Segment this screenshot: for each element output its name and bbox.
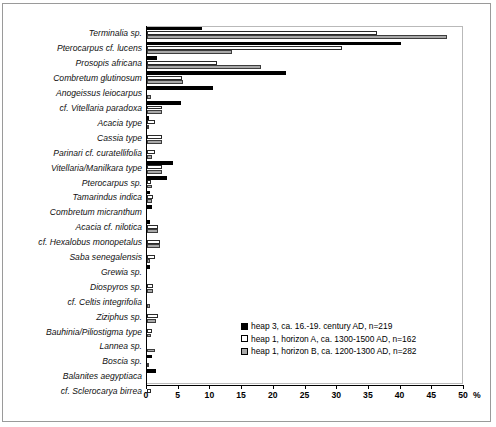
bar-series-0: [147, 71, 286, 75]
bar-series-1: [147, 284, 153, 288]
legend-item: heap 1, horizon B, ca. 1200-1300 AD, n=2…: [241, 345, 426, 358]
category-label: Grewia sp.: [3, 267, 142, 277]
figure-page: Terminalia sp.Pterocarpus cf. lucensPros…: [0, 0, 496, 427]
figure-frame: Terminalia sp.Pterocarpus cf. lucensPros…: [2, 3, 491, 422]
bar-row: Parinari cf. curatellifolia: [3, 145, 483, 160]
bar-group: [147, 131, 483, 145]
category-label: Parinari cf. curatellifolia: [3, 148, 142, 158]
category-label: Diospyros sp.: [3, 282, 142, 292]
bar-series-2: [147, 349, 155, 353]
bar-series-0: [147, 191, 150, 195]
bar-series-1: [147, 240, 160, 244]
category-label: Tamarindus indica: [3, 192, 142, 202]
bar-group: [147, 56, 483, 70]
bar-series-2: [147, 244, 160, 248]
bar-group: [147, 369, 483, 383]
bar-row: Combretum micranthum: [3, 205, 483, 220]
bar-group: [147, 250, 483, 264]
bar-series-1: [147, 76, 182, 80]
bar-row: cf. Vitellaria paradoxa: [3, 101, 483, 116]
bar-series-1: [147, 120, 155, 124]
bar-series-1: [147, 195, 153, 199]
category-label: Prosopis africana: [3, 58, 142, 68]
bar-series-0: [147, 86, 213, 90]
bar-series-2: [147, 95, 151, 99]
bar-group: [147, 280, 483, 294]
bar-series-1: [147, 225, 158, 229]
bar-row: Anogeissus leiocarpus: [3, 86, 483, 101]
bar-group: [147, 161, 483, 175]
x-tick-label: 15: [236, 390, 246, 400]
bar-series-0: [147, 205, 152, 209]
legend: heap 3, ca. 16.-19. century AD, n=219hea…: [241, 320, 426, 358]
bar-group: [147, 27, 483, 41]
bar-series-2: [147, 50, 232, 54]
x-tick: [146, 385, 147, 389]
x-axis-unit-label: %: [473, 390, 481, 400]
x-tick: [209, 385, 210, 389]
x-tick: [336, 385, 337, 389]
category-label: Anogeissus leiocarpus: [3, 88, 142, 98]
x-tick-label: 35: [363, 390, 373, 400]
bar-row: Pterocarpus sp.: [3, 175, 483, 190]
bar-series-0: [147, 42, 401, 46]
bar-group: [147, 235, 483, 249]
bar-series-2: [147, 304, 150, 308]
bar-row: Combretum glutinosum: [3, 71, 483, 86]
x-tick-label: 25: [300, 390, 310, 400]
bar-series-2: [147, 199, 152, 203]
category-label: Balanites aegyptiaca: [3, 371, 142, 381]
x-tick: [273, 385, 274, 389]
bar-group: [147, 176, 483, 190]
category-label: Pterocarpus cf. lucens: [3, 43, 142, 53]
bar-group: [147, 146, 483, 160]
x-tick: [368, 385, 369, 389]
x-tick-label: 50: [458, 390, 468, 400]
bar-group: [147, 220, 483, 234]
x-tick-label: 45: [427, 390, 437, 400]
bar-row: Grewia sp.: [3, 265, 483, 280]
bar-series-2: [147, 185, 152, 189]
category-label: Vitellaria/Manilkara type: [3, 163, 142, 173]
bar-row: Tamarindus indica: [3, 190, 483, 205]
bar-series-2: [147, 155, 152, 159]
bar-series-2: [147, 35, 447, 39]
category-label: cf. Sclerocarya birrea: [3, 386, 142, 396]
x-tick-label: 20: [268, 390, 278, 400]
x-tick-label: 0: [144, 390, 149, 400]
category-label: cf. Celtis integrifolia: [3, 297, 142, 307]
bar-series-2: [147, 110, 162, 114]
bar-group: [147, 116, 483, 130]
x-tick-label: 40: [395, 390, 405, 400]
category-label: cf. Vitellaria paradoxa: [3, 103, 142, 113]
category-label: Cassia type: [3, 133, 142, 143]
bar-series-0: [147, 27, 202, 31]
bar-group: [147, 86, 483, 100]
legend-item: heap 1, horizon A, ca. 1300-1500 AD, n=1…: [241, 333, 426, 346]
bar-series-2: [147, 229, 158, 233]
bar-series-1: [147, 329, 152, 333]
category-label: Bauhinia/Piliostigma type: [3, 327, 142, 337]
bar-row: Diospyros sp.: [3, 279, 483, 294]
bar-series-0: [147, 161, 173, 165]
white-square-icon: [241, 335, 248, 342]
bar-row: Vitellaria/Manilkara type: [3, 160, 483, 175]
bar-series-1: [147, 150, 155, 154]
bar-series-2: [147, 259, 150, 263]
bar-row: Terminalia sp.: [3, 26, 483, 41]
bar-series-1: [147, 46, 342, 50]
bar-series-0: [147, 355, 152, 359]
bar-row: cf. Hexalobus monopetalus: [3, 235, 483, 250]
bar-series-1: [147, 31, 377, 35]
category-label: Saba senegalensis: [3, 252, 142, 262]
category-label: Combretum micranthum: [3, 207, 142, 217]
category-label: Acacia cf. nilotica: [3, 222, 142, 232]
bar-row: cf. Celtis integrifolia: [3, 294, 483, 309]
x-tick: [241, 385, 242, 389]
x-tick: [431, 385, 432, 389]
bar-group: [147, 71, 483, 85]
x-tick: [305, 385, 306, 389]
black-square-icon: [241, 323, 248, 330]
bar-series-1: [147, 314, 158, 318]
category-label: Ziziphus sp.: [3, 312, 142, 322]
